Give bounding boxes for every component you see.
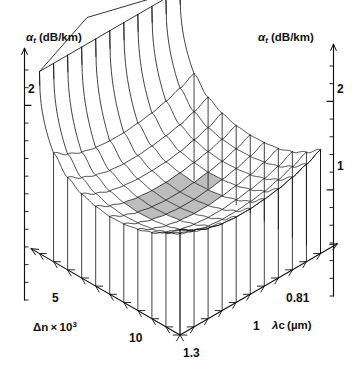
lambda-c-axis-label: λc (µm) — [272, 320, 312, 332]
left-axis-tick-2: 2 — [28, 83, 35, 95]
delta-n-tick-10: 10 — [129, 332, 142, 344]
delta-n-tick-5: 5 — [52, 292, 59, 304]
right-axis-tick-1: 1 — [337, 160, 344, 172]
left-vertical-axis-label: αt (dB/km) — [26, 32, 82, 45]
lambda-c-tick-0p81: 0.81 — [286, 292, 309, 304]
delta-n-axis-label: Δn × 103 — [33, 321, 77, 333]
surface-graphics — [22, 0, 338, 341]
right-axis-tick-2: 2 — [337, 83, 344, 95]
right-vertical-axis-label: αt (dB/km) — [258, 32, 314, 45]
figure-3d-surface-plot: αt (dB/km) αt (dB/km) 2 2 1 Δn × 103 5 1… — [0, 0, 359, 377]
lambda-c-tick-1: 1 — [253, 320, 260, 332]
lambda-c-tick-1p3: 1.3 — [183, 347, 200, 359]
